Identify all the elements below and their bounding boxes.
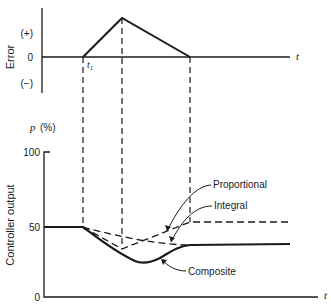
error-tick-zero: 0: [27, 52, 33, 63]
output-tick-50: 50: [29, 222, 41, 233]
error-tick-negative: (−): [21, 78, 34, 89]
integral-label: Integral: [214, 200, 247, 211]
output-unit-pct: (%): [40, 122, 56, 133]
composite-label: Composite: [188, 266, 236, 277]
t1-label: t1: [87, 59, 93, 72]
output-chart: p (%) t Controller output 100 50 0 Propo…: [4, 121, 328, 303]
error-x-label: t: [296, 50, 300, 62]
output-y-label: Controller output: [4, 184, 16, 265]
error-triangle-curve: [83, 18, 190, 57]
composite-curve: [44, 227, 290, 263]
error-chart: t Error (+) 0 (−) t1: [4, 8, 300, 93]
output-unit-var: p: [29, 121, 36, 133]
integral-curve: [83, 227, 200, 245]
controller-response-diagram: t Error (+) 0 (−) t1 p (%) t Controller …: [0, 0, 331, 306]
integral-leader: [171, 206, 212, 242]
error-tick-positive: (+): [21, 28, 34, 39]
error-y-label: Error: [4, 44, 16, 69]
output-tick-0: 0: [34, 292, 40, 303]
output-tick-100: 100: [23, 147, 40, 158]
proportional-leader: [167, 185, 211, 231]
output-x-label: t: [324, 289, 328, 301]
proportional-label: Proportional: [213, 179, 267, 190]
projection-lines: [83, 18, 190, 249]
